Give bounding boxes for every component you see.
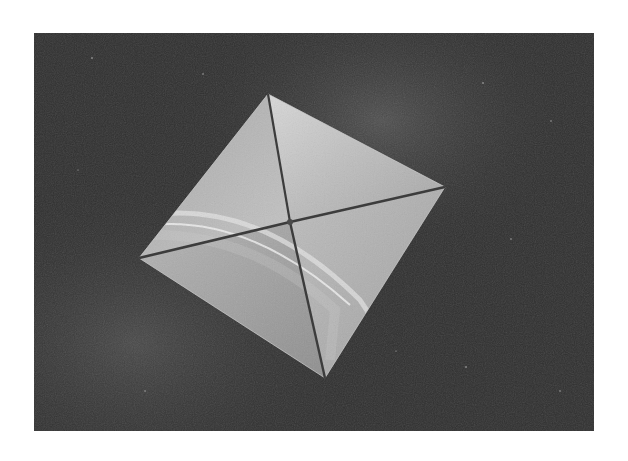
sail-hub — [287, 219, 293, 225]
solar-sail-photo — [0, 0, 628, 461]
solar-sail-illustration — [0, 0, 628, 461]
